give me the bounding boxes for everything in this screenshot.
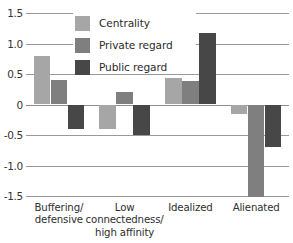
bar xyxy=(248,105,265,197)
y-tick-label: 0.5 xyxy=(0,68,23,80)
bar xyxy=(68,105,85,129)
chart-legend: CentralityPrivate regardPublic regard xyxy=(75,12,195,78)
bar xyxy=(231,105,248,114)
y-tick-label: 1.0 xyxy=(0,38,23,50)
x-tick-label-line: connectedness/ xyxy=(79,214,171,226)
bar xyxy=(265,105,282,148)
legend-item[interactable]: Private regard xyxy=(75,34,195,56)
legend-swatch-icon xyxy=(75,38,90,53)
grouped-bar-chart: 1.51.00.50-0.5-1.0-1.5 Buffering/defensi… xyxy=(0,0,293,243)
legend-swatch-icon xyxy=(75,60,90,75)
legend-item[interactable]: Public regard xyxy=(75,56,195,78)
legend-swatch-icon xyxy=(75,16,90,31)
legend-item[interactable]: Centrality xyxy=(75,12,195,34)
bar-group xyxy=(223,13,289,196)
bar xyxy=(133,105,150,136)
legend-label: Centrality xyxy=(99,17,150,29)
y-tick-label: -1.0 xyxy=(0,160,23,172)
y-tick-label: 1.5 xyxy=(0,7,23,19)
bar xyxy=(51,80,68,104)
x-axis-tick-labels: Buffering/defensiveLowconnectedness/high… xyxy=(26,198,289,243)
bar xyxy=(165,78,182,105)
bar xyxy=(116,92,133,104)
y-tick-label: -1.5 xyxy=(0,190,23,202)
x-tick-label-line: Alienated xyxy=(210,202,293,214)
bar xyxy=(34,56,51,105)
legend-label: Private regard xyxy=(99,39,173,51)
y-tick-label: 0 xyxy=(0,99,23,111)
x-tick-label-line: high affinity xyxy=(79,227,171,239)
y-tick-label: -0.5 xyxy=(0,129,23,141)
bar xyxy=(99,105,116,129)
bar xyxy=(199,33,216,105)
bar xyxy=(182,81,199,105)
x-tick-label: Alienated xyxy=(210,202,293,214)
legend-label: Public regard xyxy=(99,61,167,73)
